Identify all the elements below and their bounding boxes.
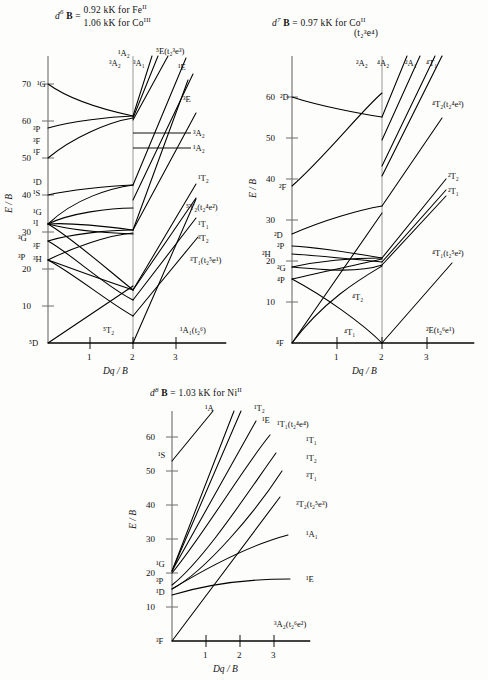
d6-right-label: ⁵E(t₂³e³) — [156, 46, 184, 56]
term-label: ²H — [262, 249, 271, 259]
term-label: ⁴P — [277, 275, 285, 285]
term-label: ¹I — [33, 218, 39, 228]
d8-title-line1-sup: II — [237, 386, 242, 393]
svg-text:40: 40 — [266, 174, 276, 184]
d6-x-ticks: 1 2 3 — [87, 337, 178, 362]
d8-title-eq: = — [170, 388, 176, 398]
d6-title-line1-text: 0.92 kK for Fe — [84, 5, 143, 15]
d6-right-label: ¹A₂ — [193, 143, 205, 153]
d7-top-label: ²A₁ — [405, 58, 417, 68]
term-label: ³F — [33, 241, 41, 251]
d7-top-labels: ²A₂ ⁴A₂ ²A₁ ⁴T₁ — [356, 58, 437, 68]
d6-title-line2: 1.06 kK for CoIII — [84, 16, 151, 29]
panel-d6: d6 B = 0.92 kK for FeII 1.06 kK for CoII… — [0, 0, 244, 390]
d7-inner-label: ⁴T₁ — [344, 327, 355, 337]
svg-text:3: 3 — [173, 352, 178, 362]
svg-text:1: 1 — [87, 352, 92, 362]
svg-text:20: 20 — [22, 264, 32, 274]
d8-right-label: ¹E — [262, 415, 270, 425]
panel-d6-title: d6 B = 0.92 kK for FeII 1.06 kK for CoII… — [55, 3, 151, 30]
d7-title-eq: = — [292, 18, 298, 28]
svg-text:70: 70 — [22, 79, 32, 89]
svg-text:40: 40 — [146, 500, 156, 510]
d6-right-label: ¹E — [178, 62, 186, 72]
d7-config-label: (t₂³e⁴) — [354, 28, 378, 38]
svg-text:40: 40 — [22, 190, 32, 200]
d6-right-labels: ⁵E(t₂³e³) ¹E ³E ³A₂ ¹A₂ ¹T₂ ⁵T₂(t₂⁴e²) ¹… — [156, 46, 221, 265]
svg-text:60: 60 — [266, 92, 276, 102]
term-label: ²D — [280, 92, 289, 102]
svg-text:50: 50 — [22, 153, 32, 163]
d7-right-label: ⁴T₂(t₂⁴e³) — [432, 99, 464, 109]
svg-text:2: 2 — [130, 352, 135, 362]
d8-curves — [172, 411, 310, 641]
d6-title-line2-sup: III — [144, 16, 151, 23]
tanabe-sugano-figure: d6 B = 0.92 kK for FeII 1.06 kK for CoII… — [0, 0, 488, 680]
d8-free-ion-terms: ¹S ¹G ³P ¹D ³F — [156, 450, 166, 646]
term-label: ³G — [18, 233, 27, 243]
panel-d8: d8 B = 1.03 kK for NiII 10 20 30 40 50 6… — [110, 385, 400, 680]
svg-text:10: 10 — [266, 297, 276, 307]
d6-title-exponent: 6 — [60, 8, 64, 16]
d6-right-label: ³T₂ — [198, 233, 209, 243]
d7-right-label: ²E(t₂⁶e¹) — [426, 325, 454, 335]
d7-top-label: ²A₂ — [356, 58, 368, 68]
panel-d7: d7 B = 0.97 kK for CoII (t₂³e⁴) 10 20 30… — [244, 0, 488, 390]
svg-text:1: 1 — [203, 650, 208, 660]
panel-d8-title: d8 B = 1.03 kK for NiII — [150, 386, 242, 398]
d6-title-eq: = — [75, 11, 81, 21]
d8-right-label: ³T₂(t₂⁵e³) — [296, 499, 327, 509]
svg-text:10: 10 — [146, 602, 156, 612]
panel-d8-plot: 10 20 30 40 50 60 1 2 3 Dq / B E / B ¹S … — [110, 399, 400, 679]
d7-title-line1: 0.97 kK for Co — [301, 18, 361, 28]
svg-text:2: 2 — [379, 352, 384, 362]
term-label: ³F — [156, 636, 164, 646]
term-label: ²G — [277, 263, 286, 273]
panel-d7-plot: 10 20 30 40 50 60 1 2 3 Dq / B E / B ²D … — [244, 38, 488, 388]
svg-text:50: 50 — [146, 466, 156, 476]
term-label: ²P — [277, 241, 285, 251]
d8-y-axis-label: E / B — [128, 510, 138, 530]
d6-top-label: ³A₂ — [109, 58, 121, 68]
d7-right-label: ⁴T₁(t₂⁵e²) — [432, 248, 464, 258]
d7-inner-labels: ⁴T₂ ⁴T₁ — [344, 292, 363, 337]
d8-x-ticks: 1 2 3 — [203, 635, 276, 660]
d7-title-line1-sup: II — [361, 16, 366, 23]
term-label: ¹G — [37, 79, 46, 89]
d7-top-label: ⁴T₁ — [426, 58, 437, 68]
d8-right-label: ¹A₁ — [306, 529, 318, 539]
d8-title-line1: 1.03 kK for Ni — [179, 388, 238, 398]
svg-text:30: 30 — [266, 215, 276, 225]
term-label: ³P — [18, 252, 26, 262]
d7-title-exponent: 7 — [277, 16, 281, 24]
term-label: ²F — [279, 182, 287, 192]
term-label: ⁴F — [276, 338, 284, 348]
d6-title-values: 0.92 kK for FeII 1.06 kK for CoIII — [84, 3, 151, 30]
d6-curves-right — [133, 56, 226, 343]
d6-ground-hs-label: ⁵T₂ — [103, 325, 114, 335]
svg-text:1: 1 — [334, 352, 339, 362]
d6-right-label: ³E — [183, 94, 191, 104]
d7-right-label: ²T₂ — [448, 171, 459, 181]
d8-right-label: ¹A — [205, 403, 215, 413]
d6-title-line1: 0.92 kK for FeII — [84, 3, 151, 16]
term-label: ²D — [274, 230, 283, 240]
term-label: ³H — [33, 254, 42, 264]
d6-right-label: ³T₁(t₂⁵e¹) — [190, 255, 221, 265]
d6-title-line2-text: 1.06 kK for Co — [84, 19, 144, 29]
d8-right-label: ¹T₁(t₂⁴e⁴) — [277, 419, 309, 429]
d8-title-b: B — [161, 388, 168, 398]
d7-inner-label: ⁴T₂ — [352, 292, 363, 302]
svg-text:10: 10 — [22, 301, 32, 311]
term-label: ³P — [33, 124, 41, 134]
svg-text:60: 60 — [146, 432, 156, 442]
term-label: ¹S — [158, 450, 166, 460]
d6-title-line1-sup: II — [142, 3, 147, 10]
panel-d6-plot: 10 20 30 40 50 60 70 1 2 3 Dq / B E / B … — [0, 38, 244, 388]
d6-right-label: ⁵T₂(t₂⁴e²) — [186, 202, 218, 212]
d7-curves-left — [292, 93, 382, 343]
d8-right-label: ¹T₁ — [306, 435, 317, 445]
d7-y-axis-label: E / B — [248, 179, 258, 199]
d6-title-b: B — [66, 11, 73, 21]
svg-text:50: 50 — [266, 133, 276, 143]
